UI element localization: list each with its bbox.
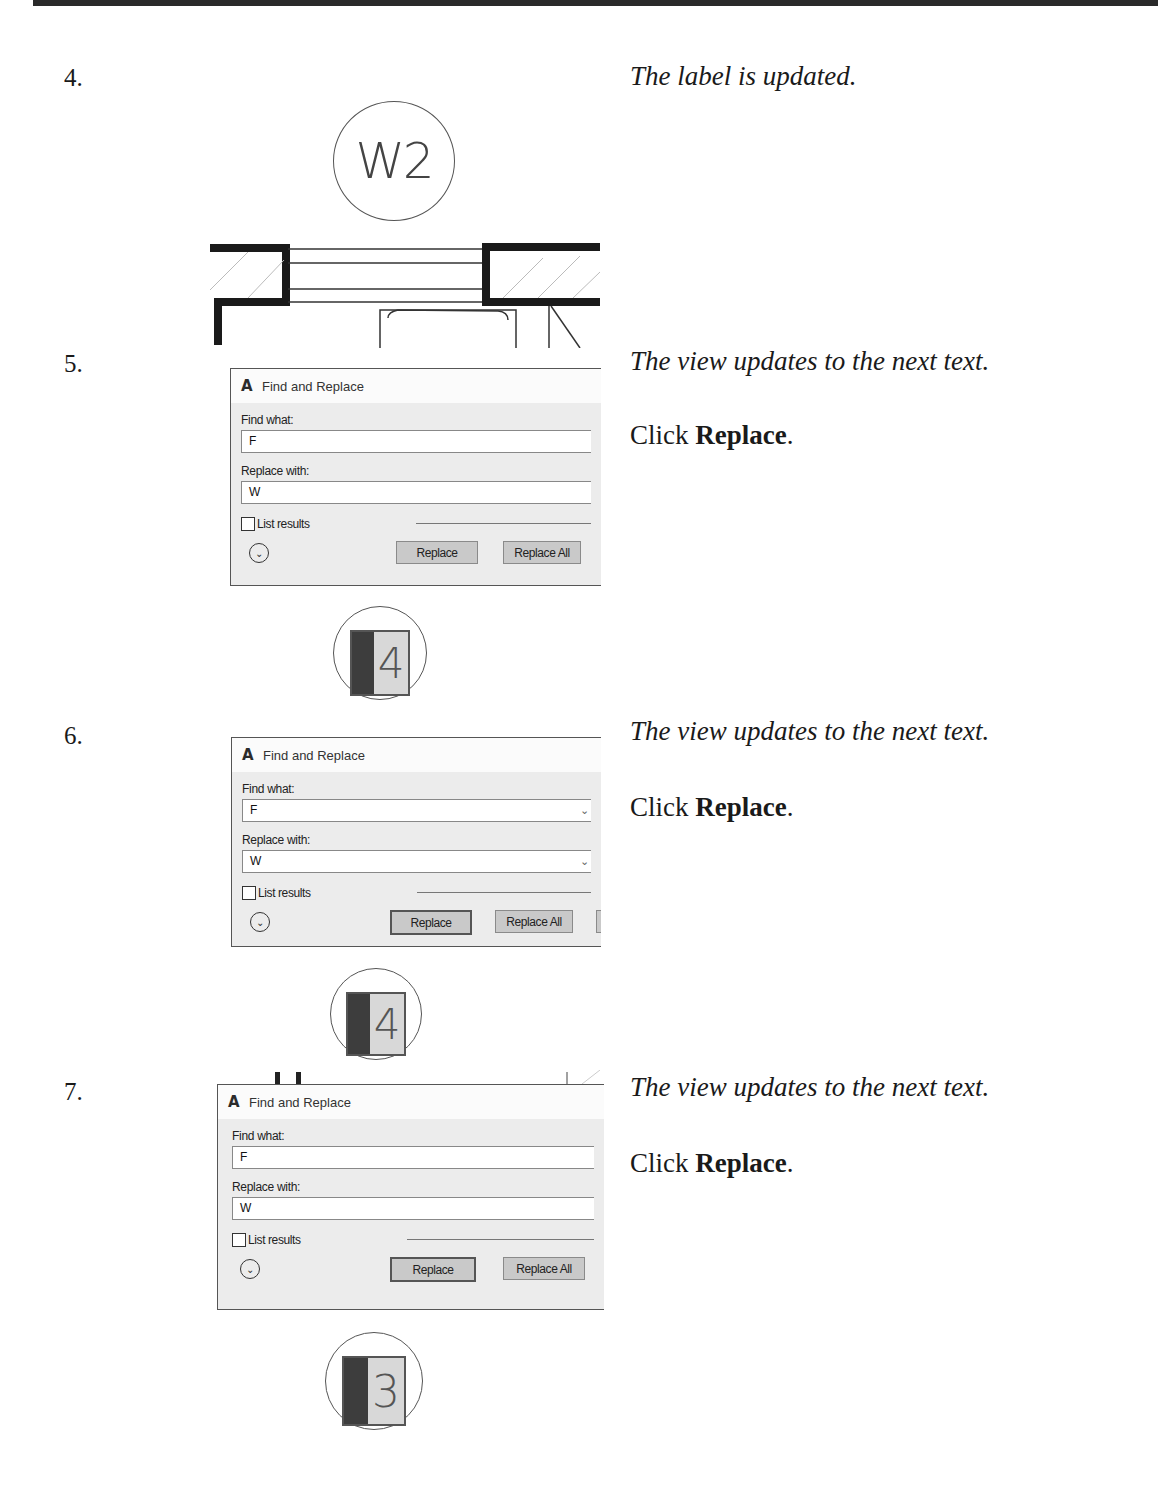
step-number-4: 4. [64, 64, 83, 92]
tag-highlight [352, 632, 374, 694]
replace-button[interactable]: Replace [396, 541, 478, 564]
autocad-app-icon: A [228, 1095, 242, 1109]
find-what-label: Find what: [241, 413, 591, 427]
step-4-description: The label is updated. [630, 61, 856, 92]
door-tag-6: 4 [346, 992, 406, 1056]
partial-button[interactable] [596, 910, 601, 933]
find-what-combobox[interactable]: F⌄ [242, 799, 591, 822]
separator [417, 892, 591, 893]
step-7-description: The view updates to the next text. [630, 1072, 989, 1103]
expand-options-icon[interactable]: ⌄ [249, 543, 269, 563]
step-5-instruction: Click Replace. [630, 420, 793, 451]
tag-highlight [344, 1358, 368, 1424]
step-number-6: 6. [64, 722, 83, 750]
window-tag-label: W2 [334, 102, 454, 220]
dialog-titlebar: A Find and Replace [231, 369, 601, 403]
dialog-titlebar: A Find and Replace [218, 1085, 604, 1119]
separator [416, 523, 591, 524]
find-what-input[interactable]: F [241, 430, 591, 453]
dialog-title: Find and Replace [249, 1095, 351, 1110]
replace-with-label: Replace with: [241, 464, 591, 478]
dialog-title: Find and Replace [263, 748, 365, 763]
replace-button[interactable]: Replace [390, 1257, 476, 1282]
find-what-label: Find what: [242, 782, 591, 796]
replace-button[interactable]: Replace [390, 910, 472, 935]
list-results-label: List results [257, 517, 310, 531]
tag-value: 4 [370, 994, 404, 1054]
find-replace-dialog: A Find and Replace Find what: F Replace … [217, 1084, 604, 1310]
step-7-instruction: Click Replace. [630, 1148, 793, 1179]
replace-with-input[interactable]: W [241, 481, 591, 504]
expand-options-icon[interactable]: ⌄ [240, 1259, 260, 1279]
step-number-7: 7. [64, 1078, 83, 1106]
list-results-checkbox[interactable] [232, 1233, 246, 1247]
find-what-input[interactable]: F [232, 1146, 594, 1169]
find-what-label: Find what: [232, 1129, 594, 1143]
list-results-label: List results [258, 886, 311, 900]
replace-all-button[interactable]: Replace All [495, 910, 573, 933]
list-results-checkbox[interactable] [242, 886, 256, 900]
replace-with-label: Replace with: [242, 833, 591, 847]
step-6-description: The view updates to the next text. [630, 716, 989, 747]
door-tag-5: 4 [350, 630, 410, 696]
separator [407, 1239, 594, 1240]
replace-reference: Replace [695, 792, 786, 822]
step-number-5: 5. [64, 350, 83, 378]
list-results-label: List results [248, 1233, 301, 1247]
replace-with-input[interactable]: W [232, 1197, 594, 1220]
dropdown-arrow-icon[interactable]: ⌄ [580, 851, 589, 872]
autocad-app-icon: A [241, 379, 255, 393]
replace-with-combobox[interactable]: W⌄ [242, 850, 591, 873]
door-tag-7: 3 [342, 1356, 406, 1426]
tag-value: 4 [374, 632, 408, 694]
dialog-title: Find and Replace [262, 379, 364, 394]
find-replace-dialog: A Find and Replace Find what: F⌄ Replace… [231, 737, 601, 947]
replace-all-button[interactable]: Replace All [503, 1257, 585, 1280]
replace-with-label: Replace with: [232, 1180, 594, 1194]
dialog-titlebar: A Find and Replace [232, 738, 601, 772]
window-plan-drawing [208, 240, 600, 348]
step-5-description: The view updates to the next text. [630, 346, 989, 377]
window-tag-callout: W2 [333, 101, 455, 221]
list-results-checkbox[interactable] [241, 517, 255, 531]
tag-value: 3 [368, 1358, 404, 1424]
autocad-app-icon: A [242, 748, 256, 762]
replace-reference: Replace [695, 1148, 786, 1178]
tag-highlight [348, 994, 370, 1054]
dropdown-arrow-icon[interactable]: ⌄ [580, 800, 589, 821]
step-6-instruction: Click Replace. [630, 792, 793, 823]
find-replace-dialog: A Find and Replace Find what: F Replace … [230, 368, 601, 586]
page-top-rule [33, 0, 1158, 6]
replace-all-button[interactable]: Replace All [503, 541, 581, 564]
expand-options-icon[interactable]: ⌄ [250, 912, 270, 932]
replace-reference: Replace [695, 420, 786, 450]
